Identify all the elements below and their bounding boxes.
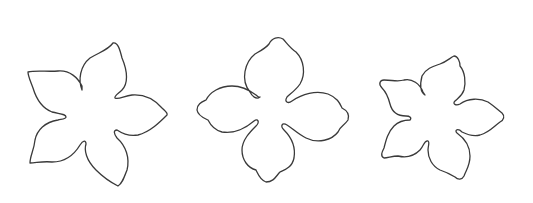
flower-outlines xyxy=(0,0,533,203)
flower-templates-canvas xyxy=(0,0,533,203)
flower-outline-right xyxy=(380,56,504,179)
flower-outline-center xyxy=(197,38,349,182)
flower-outline-left xyxy=(28,43,167,186)
